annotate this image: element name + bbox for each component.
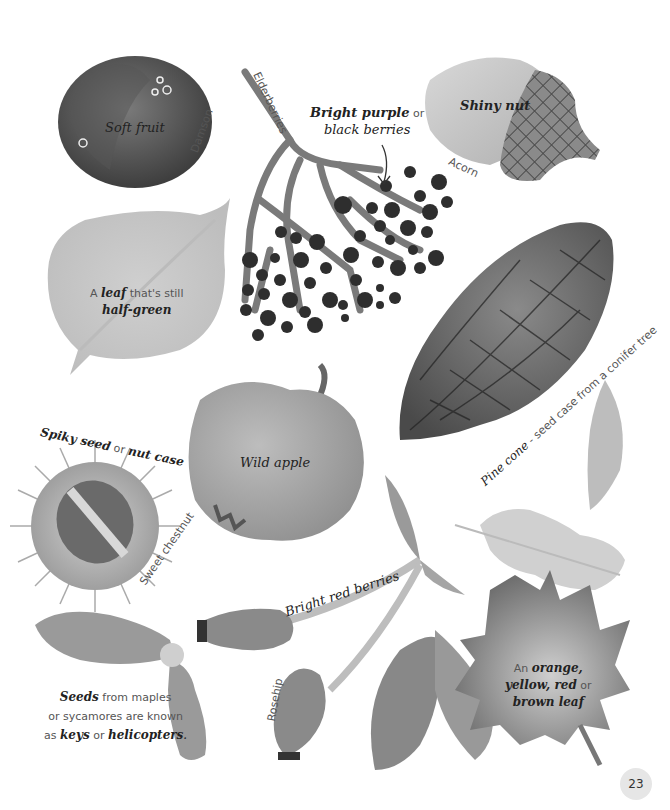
autumn-leaf-brown: brown leaf xyxy=(513,695,584,709)
elderberries-caption-or: or xyxy=(410,107,425,120)
autumn-leaf-colors: yellow, red xyxy=(505,678,577,692)
seeds-line3-prefix: as xyxy=(44,729,60,742)
half-green-leaf-caption: A leaf that's still half-green xyxy=(90,285,183,319)
wild-apple-illustration xyxy=(189,365,364,541)
damson-caption: Soft fruit xyxy=(105,120,165,135)
arrow-icon xyxy=(378,145,390,184)
page-number-badge: 23 xyxy=(620,768,652,800)
page-number: 23 xyxy=(628,777,643,791)
willow-leaf-illustration xyxy=(588,380,623,510)
autumn-leaf-orange: orange, xyxy=(532,661,583,675)
seeds-strong: Seeds xyxy=(60,690,99,704)
sweet-chestnut-illustration xyxy=(10,440,180,612)
autumn-leaf-prefix: An xyxy=(514,662,532,675)
seeds-line2: or sycamores are known xyxy=(48,710,183,723)
seeds-period: . xyxy=(183,728,187,742)
seeds-keys: keys xyxy=(60,728,90,742)
leaf-caption-prefix: A xyxy=(90,287,101,300)
rosehip-illustration xyxy=(197,609,326,760)
seeds-line1-rest: from maples xyxy=(99,691,172,704)
maple-seeds-caption: Seeds from maples or sycamores are known… xyxy=(44,688,187,745)
seeds-helicopters: helicopters xyxy=(108,728,183,742)
elderberries-caption-line2: black berries xyxy=(324,122,411,137)
leaf-caption-suffix: that's still xyxy=(126,287,183,300)
seeds-or: or xyxy=(90,729,108,742)
oak-leaf-illustration xyxy=(455,509,625,590)
leaf-caption-strong: leaf xyxy=(101,286,126,300)
autumn-leaf-caption: An orange, yellow, red or brown leaf xyxy=(505,660,592,711)
elderberries-caption: Bright purple or black berries xyxy=(310,105,424,138)
leaf-caption-line2: half-green xyxy=(102,303,171,317)
wild-apple-caption: Wild apple xyxy=(240,455,310,470)
elderberries-caption-strong: Bright purple xyxy=(310,105,410,120)
autumn-leaf-or: or xyxy=(577,679,592,692)
acorn-caption: Shiny nut xyxy=(460,98,530,113)
